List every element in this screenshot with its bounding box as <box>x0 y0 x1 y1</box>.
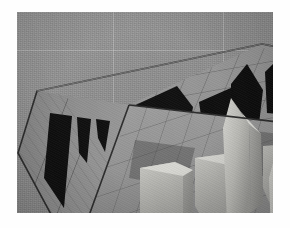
photograph <box>17 12 273 213</box>
model-scene <box>17 12 273 213</box>
tower-block-left <box>140 162 193 213</box>
page-canvas <box>0 0 290 228</box>
